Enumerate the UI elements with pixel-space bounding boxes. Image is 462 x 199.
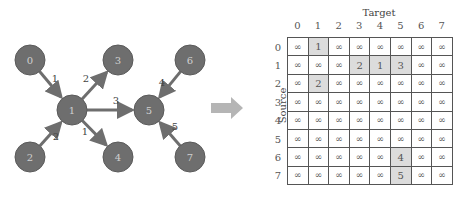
edge-weight-label: 2 bbox=[53, 131, 59, 142]
matrix-row: ∞∞∞∞∞∞∞∞ bbox=[288, 111, 453, 129]
edge-weight-label: 4 bbox=[159, 77, 165, 88]
target-axis-title: Target bbox=[359, 7, 399, 18]
matrix-cell: ∞ bbox=[411, 129, 432, 147]
matrix-row: ∞1∞∞∞∞∞∞ bbox=[288, 38, 453, 56]
row-label: 3 bbox=[272, 93, 284, 111]
column-label: 0 bbox=[287, 20, 308, 34]
matrix-row: ∞∞∞∞∞5∞∞ bbox=[288, 166, 453, 184]
matrix-cell: ∞ bbox=[349, 148, 370, 166]
column-label: 6 bbox=[411, 20, 432, 34]
matrix-cell: ∞ bbox=[288, 93, 309, 111]
matrix-cell: ∞ bbox=[411, 148, 432, 166]
matrix-cell: ∞ bbox=[432, 93, 453, 111]
matrix-cell: ∞ bbox=[288, 111, 309, 129]
node-label: 7 bbox=[187, 152, 193, 163]
matrix-cell: ∞ bbox=[329, 166, 350, 184]
row-labels: 0 1 2 3 4 5 6 7 bbox=[272, 38, 284, 185]
graph-node-5: 5 bbox=[134, 95, 164, 125]
matrix-cell: ∞ bbox=[411, 56, 432, 74]
matrix-cell: ∞ bbox=[411, 166, 432, 184]
graph-node-3: 3 bbox=[103, 45, 133, 75]
matrix-cell: ∞ bbox=[349, 166, 370, 184]
matrix-cell: ∞ bbox=[432, 129, 453, 147]
edge-weight-label: 5 bbox=[172, 121, 178, 132]
matrix-row: ∞2∞∞∞∞∞∞ bbox=[288, 74, 453, 92]
matrix-cell: ∞ bbox=[329, 56, 350, 74]
matrix-cell: ∞ bbox=[308, 129, 329, 147]
matrix-cell: ∞ bbox=[370, 38, 391, 56]
matrix-cell: ∞ bbox=[411, 111, 432, 129]
graph-node-7: 7 bbox=[175, 142, 205, 172]
column-label: 2 bbox=[328, 20, 349, 34]
matrix-row: ∞∞∞213∞∞ bbox=[288, 56, 453, 74]
edge-weight-label: 1 bbox=[52, 73, 58, 84]
matrix-cell: ∞ bbox=[432, 148, 453, 166]
matrix-cell: ∞ bbox=[288, 148, 309, 166]
matrix-cell: ∞ bbox=[329, 74, 350, 92]
matrix-cell: ∞ bbox=[329, 129, 350, 147]
matrix-cell: ∞ bbox=[349, 38, 370, 56]
row-label: 4 bbox=[272, 112, 284, 130]
graph-node-1: 1 bbox=[57, 95, 87, 125]
adjacency-matrix: ∞1∞∞∞∞∞∞∞∞∞213∞∞∞2∞∞∞∞∞∞∞∞∞∞∞∞∞∞∞∞∞∞∞∞∞∞… bbox=[287, 37, 453, 185]
matrix-cell: ∞ bbox=[329, 38, 350, 56]
matrix-cell: ∞ bbox=[390, 111, 411, 129]
row-label: 5 bbox=[272, 130, 284, 148]
node-label: 0 bbox=[27, 55, 33, 66]
graph-node-2: 2 bbox=[15, 142, 45, 172]
edge-weight-label: 1 bbox=[82, 126, 88, 137]
matrix-cell: ∞ bbox=[288, 129, 309, 147]
matrix-cell: ∞ bbox=[349, 74, 370, 92]
matrix-cell: ∞ bbox=[432, 166, 453, 184]
matrix-row: ∞∞∞∞∞∞∞∞ bbox=[288, 129, 453, 147]
graph-node-4: 4 bbox=[103, 142, 133, 172]
matrix-cell: ∞ bbox=[288, 56, 309, 74]
matrix-cell: ∞ bbox=[411, 93, 432, 111]
matrix-cell: ∞ bbox=[390, 129, 411, 147]
graph-node-6: 6 bbox=[175, 45, 205, 75]
column-label: 5 bbox=[390, 20, 411, 34]
row-label: 7 bbox=[272, 167, 284, 185]
transform-arrow-icon bbox=[211, 97, 243, 119]
matrix-cell: ∞ bbox=[432, 74, 453, 92]
matrix-cell: 5 bbox=[390, 166, 411, 184]
matrix-cell: ∞ bbox=[370, 74, 391, 92]
matrix-cell: ∞ bbox=[432, 56, 453, 74]
matrix-cell: 1 bbox=[370, 56, 391, 74]
node-label: 5 bbox=[146, 105, 152, 116]
column-labels: 0 1 2 3 4 5 6 7 bbox=[287, 20, 452, 34]
matrix-cell: ∞ bbox=[288, 38, 309, 56]
matrix-cell: ∞ bbox=[308, 166, 329, 184]
matrix-row: ∞∞∞∞∞∞∞∞ bbox=[288, 93, 453, 111]
matrix-cell: 2 bbox=[308, 74, 329, 92]
matrix-cell: ∞ bbox=[329, 93, 350, 111]
row-label: 1 bbox=[272, 56, 284, 74]
graph-diagram: 1232145 01234567 bbox=[0, 0, 215, 199]
column-label: 3 bbox=[349, 20, 370, 34]
row-label: 6 bbox=[272, 148, 284, 166]
matrix-cell: ∞ bbox=[349, 93, 370, 111]
graph-node-0: 0 bbox=[15, 45, 45, 75]
matrix-cell: ∞ bbox=[308, 93, 329, 111]
node-label: 2 bbox=[27, 152, 33, 163]
row-label: 2 bbox=[272, 75, 284, 93]
matrix-cell: ∞ bbox=[390, 74, 411, 92]
matrix-cell: ∞ bbox=[308, 56, 329, 74]
row-label: 0 bbox=[272, 38, 284, 56]
matrix-cell: ∞ bbox=[349, 111, 370, 129]
matrix-cell: 3 bbox=[390, 56, 411, 74]
matrix-cell: ∞ bbox=[308, 111, 329, 129]
column-label: 1 bbox=[308, 20, 329, 34]
edge-weight-label: 3 bbox=[113, 95, 119, 106]
matrix-cell: ∞ bbox=[432, 111, 453, 129]
node-label: 6 bbox=[187, 55, 193, 66]
column-label: 7 bbox=[431, 20, 452, 34]
matrix-cell: ∞ bbox=[370, 129, 391, 147]
matrix-cell: ∞ bbox=[411, 74, 432, 92]
matrix-cell: 4 bbox=[390, 148, 411, 166]
matrix-cell: ∞ bbox=[288, 166, 309, 184]
matrix-cell: ∞ bbox=[370, 166, 391, 184]
node-label: 1 bbox=[69, 105, 75, 116]
matrix-cell: ∞ bbox=[390, 38, 411, 56]
node-label: 3 bbox=[115, 55, 121, 66]
